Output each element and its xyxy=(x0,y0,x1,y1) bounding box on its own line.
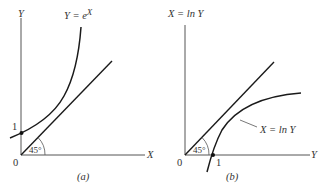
y-axis-label-b-text: X = ln Y xyxy=(167,8,205,19)
x-axis-label-a: X xyxy=(146,149,154,160)
curve-label-a-base: Y = e xyxy=(64,10,87,21)
tick-label-1-a: 1 xyxy=(12,121,17,132)
y-axis-label-b: X = ln Y xyxy=(167,8,205,19)
svg-text:Y = eX: Y = eX xyxy=(64,7,93,21)
45-degree-line-b xyxy=(185,62,274,155)
angle-label-a: 45° xyxy=(29,145,42,155)
origin-label-a: 0 xyxy=(13,157,18,168)
angle-label-b: 45° xyxy=(193,145,206,155)
origin-label-b: 0 xyxy=(177,157,182,168)
curve-label-b: X = ln Y xyxy=(259,124,297,135)
x-axis-label-b: Y xyxy=(311,149,318,160)
45-degree-line-a xyxy=(21,61,112,155)
tick-label-1-b: 1 xyxy=(216,157,221,168)
y-axis-label-a: Y xyxy=(18,8,25,19)
caption-a: (a) xyxy=(77,171,90,183)
curve-label-a: Y = eX xyxy=(64,7,93,21)
panel-b: X = ln Y Y 0 1 45° X = ln Y (b) xyxy=(167,8,318,183)
curve-label-a-exponent: X xyxy=(86,7,93,17)
diagram-canvas: Y X 0 1 45° Y = eX (a) X = ln Y Y 0 1 45… xyxy=(0,0,328,189)
panel-a: Y X 0 1 45° Y = eX (a) xyxy=(10,7,154,183)
intercept-point-a xyxy=(20,131,24,135)
intercept-point-b xyxy=(211,153,215,157)
curve-label-leader-b xyxy=(240,120,257,127)
caption-b: (b) xyxy=(226,171,239,183)
